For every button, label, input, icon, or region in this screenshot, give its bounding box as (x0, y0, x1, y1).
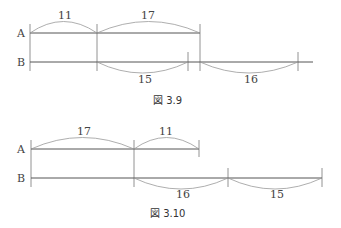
row-label-a: A (16, 143, 26, 156)
segment-value: 11 (58, 9, 72, 22)
segment-arc (200, 62, 298, 73)
figure-caption: 図 3.10 (150, 208, 185, 219)
segment-arc (97, 22, 200, 34)
segment-value: 17 (141, 9, 155, 22)
segment-value: 11 (159, 125, 173, 138)
segment-value: 17 (77, 125, 91, 138)
segment-value: 16 (244, 73, 258, 86)
segment-value: 15 (270, 188, 284, 201)
segment-arc (30, 22, 97, 34)
segment-arc (134, 138, 199, 150)
figure-3-10: A 17 11 B 16 15 図 3.10 (16, 125, 322, 219)
figure-3-9: A 11 17 B 15 16 図 3.9 (16, 9, 313, 106)
row-label-b: B (17, 56, 25, 69)
segment-value: 16 (176, 188, 190, 201)
segment-arc (97, 62, 188, 73)
segment-value: 15 (138, 73, 152, 86)
diagram-canvas: A 11 17 B 15 16 図 3.9 A 17 11 B 16 15 (0, 0, 341, 228)
segment-arc (31, 138, 134, 150)
row-label-b: B (17, 172, 25, 185)
figure-caption: 図 3.9 (153, 95, 182, 106)
row-label-a: A (16, 27, 26, 40)
